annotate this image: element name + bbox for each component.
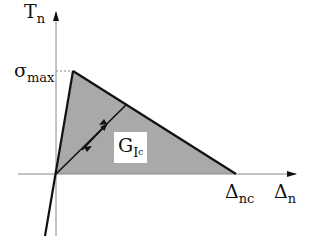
traction-separation-diagram: Tn σmax GIc Δnc Δn bbox=[0, 0, 311, 245]
x-axis-subscript: n bbox=[288, 191, 296, 206]
y-axis-symbol: T bbox=[24, 0, 37, 22]
end-subscript: nc bbox=[239, 191, 255, 206]
y-axis-subscript: n bbox=[37, 11, 45, 26]
diagram-graphics bbox=[0, 0, 311, 245]
x-axis-symbol: Δ bbox=[274, 180, 288, 202]
peak-symbol: σ bbox=[14, 59, 27, 81]
area-label: GIc bbox=[118, 136, 143, 155]
peak-subscript: max bbox=[27, 70, 54, 85]
end-label: Δnc bbox=[225, 182, 254, 201]
end-symbol: Δ bbox=[225, 180, 239, 202]
y-axis-label: Tn bbox=[24, 2, 45, 21]
peak-label: σmax bbox=[14, 61, 54, 80]
x-axis-label: Δn bbox=[274, 182, 296, 201]
area-subsubscript: c bbox=[138, 147, 143, 157]
area-symbol: G bbox=[118, 134, 133, 156]
